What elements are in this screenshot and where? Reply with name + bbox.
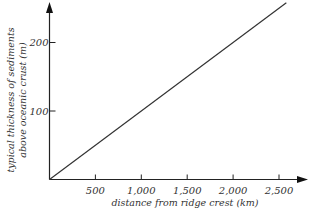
y-ticks: 100200: [28, 37, 55, 117]
x-tick-label: 2,000: [218, 185, 248, 196]
data-line: [50, 3, 287, 180]
x-axis-arrow-icon: [297, 176, 308, 183]
x-tick-label: 2,500: [264, 185, 294, 196]
x-tick-label: 1,000: [127, 185, 156, 196]
chart: 5001,0001,5002,0002,500 100200 distance …: [0, 0, 310, 208]
y-axis-title-line-2: above oceanic crust (m): [17, 42, 28, 158]
axes: [50, 8, 301, 180]
y-axis-title: typical thickness of sediments above oce…: [5, 27, 28, 172]
x-tick-label: 500: [86, 185, 106, 196]
y-axis-arrow-icon: [46, 2, 53, 13]
x-axis-title: distance from ridge crest (km): [111, 197, 258, 208]
x-ticks: 5001,0001,5002,0002,500: [86, 175, 294, 196]
y-axis-title-line-1: typical thickness of sediments: [5, 27, 16, 172]
y-tick-label: 200: [28, 37, 49, 48]
x-tick-label: 1,500: [173, 185, 202, 196]
y-tick-label: 100: [29, 106, 49, 117]
